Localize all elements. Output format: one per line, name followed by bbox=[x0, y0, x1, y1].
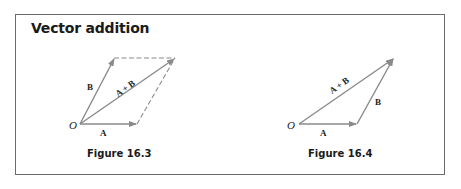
origin-label: O bbox=[69, 119, 77, 131]
vector-b-label: B bbox=[375, 97, 381, 107]
vector-sum-label: A + B bbox=[113, 78, 136, 99]
figure-caption: Figure 16.3 bbox=[87, 148, 151, 159]
figure-16-4-diagram: O A B A + B bbox=[287, 59, 393, 138]
origin-label: O bbox=[287, 119, 295, 131]
vector-sum-label: A + B bbox=[327, 75, 350, 96]
vector-b-arrow bbox=[357, 59, 393, 124]
vector-diagrams: O A B A + B O A B A + B bbox=[0, 0, 461, 189]
vector-b-label: B bbox=[87, 82, 93, 92]
figure-16-3-diagram: O A B A + B bbox=[69, 58, 175, 138]
vector-a-label: A bbox=[100, 128, 107, 138]
dashed-right-edge bbox=[137, 58, 175, 124]
vector-b-arrow bbox=[80, 59, 114, 124]
figure-caption: Figure 16.4 bbox=[308, 148, 372, 159]
vector-sum-arrow bbox=[299, 59, 393, 124]
vector-a-label: A bbox=[320, 128, 327, 138]
